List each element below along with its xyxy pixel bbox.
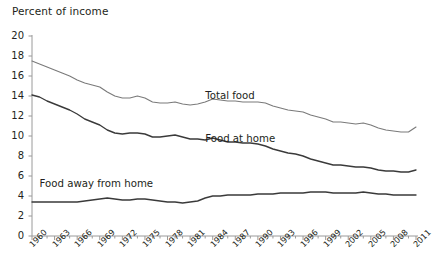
y-tick-label: 6: [4, 171, 24, 181]
y-tick-label: 18: [4, 51, 24, 61]
series-label: Total food: [205, 90, 255, 101]
y-tick-label: 20: [4, 31, 24, 41]
series-label: Food away from home: [40, 178, 154, 189]
series-line-food-away-from-home: [32, 192, 416, 203]
y-tick-label: 12: [4, 111, 24, 121]
y-tick-label: 0: [4, 231, 24, 241]
y-tick-label: 14: [4, 91, 24, 101]
y-tick-label: 8: [4, 151, 24, 161]
y-tick-label: 4: [4, 191, 24, 201]
y-tick-label: 10: [4, 131, 24, 141]
y-tick-label: 2: [4, 211, 24, 221]
y-tick-label: 16: [4, 71, 24, 81]
series-label: Food at home: [205, 133, 275, 144]
